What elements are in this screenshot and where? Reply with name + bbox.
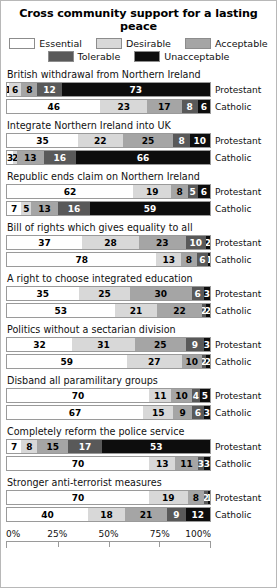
bar-segment-acceptable: 17 — [147, 100, 182, 113]
bar-row-label: Protestant — [215, 85, 261, 95]
bar-row: 6219856Protestant — [6, 184, 271, 199]
bar-segment-desirable: 6 — [9, 83, 21, 96]
legend-item-desirable[interactable]: Desirable — [96, 38, 171, 49]
bar-segment-acceptable: 25 — [123, 134, 174, 147]
stacked-bar[interactable]: 352225810 — [6, 133, 211, 148]
legend-label: Desirable — [126, 38, 171, 49]
bar-row-label: Protestant — [215, 391, 261, 401]
bar-row: 7813861Catholic — [6, 252, 271, 267]
stacked-bar[interactable]: 401821912 — [6, 507, 211, 522]
bar-group: Stronger anti-terrorist measures7019821P… — [6, 476, 271, 524]
bar-segment-acceptable: 11 — [175, 457, 197, 470]
bar-row-label: Protestant — [215, 340, 261, 350]
legend-row: TolerableUnacceptable — [6, 51, 271, 62]
bar-segment-unacceptable: 6 — [198, 100, 210, 113]
bar-group-title: Integrate Northern Ireland into UK — [7, 120, 271, 131]
bar-row: 372823102Protestant — [6, 235, 271, 250]
bar-row: 78151753Protestant — [6, 439, 271, 454]
bar-segment-essential: 53 — [7, 304, 115, 317]
bar-group: Bill of rights which gives equality to a… — [6, 221, 271, 269]
bar-segment-unacceptable: 1 — [208, 491, 210, 504]
bar-row: 352225810Protestant — [6, 133, 271, 148]
stacked-bar[interactable]: 6219856 — [6, 184, 211, 199]
stacked-bar[interactable]: 53212222 — [6, 303, 211, 318]
bar-row-label: Protestant — [215, 187, 261, 197]
bar-segment-tolerable: 16 — [58, 202, 90, 215]
bar-segment-acceptable: 21 — [125, 508, 168, 521]
bar-group: A right to choose integrated education35… — [6, 272, 271, 320]
stacked-bar[interactable]: 46231786 — [6, 99, 211, 114]
bar-segment-tolerable: 9 — [167, 508, 185, 521]
bar-segment-tolerable: 9 — [186, 338, 204, 351]
legend-item-unacceptable[interactable]: Unacceptable — [134, 51, 229, 62]
bar-group-title: Republic ends claim on Northern Ireland — [7, 171, 271, 182]
legend-row: EssentialDesirableAcceptable — [6, 38, 271, 49]
stacked-bar[interactable]: 6715963 — [6, 405, 211, 420]
legend-label: Acceptable — [215, 38, 268, 49]
bar-segment-desirable: 11 — [149, 389, 171, 402]
bar-segment-essential: 35 — [7, 287, 79, 300]
bar-segment-unacceptable: 2 — [206, 355, 210, 368]
stacked-bar[interactable]: 35253063 — [6, 286, 211, 301]
bar-segment-desirable: 8 — [21, 440, 37, 453]
x-axis-tick-marks — [6, 541, 211, 548]
bar-segment-essential: 70 — [7, 389, 149, 402]
bar-segment-unacceptable: 73 — [62, 83, 210, 96]
bar-segment-acceptable: 22 — [157, 304, 202, 317]
bar-row-label: Catholic — [215, 510, 252, 520]
bar-segment-tolerable: 4 — [192, 389, 200, 402]
bar-row-label: Protestant — [215, 493, 261, 503]
bar-segment-tolerable: 6 — [192, 406, 204, 419]
stacked-bar[interactable]: 7019821 — [6, 490, 211, 505]
bar-segment-acceptable: 8 — [181, 253, 196, 266]
legend-label: Unacceptable — [164, 51, 229, 62]
bar-segment-acceptable: 8 — [171, 185, 187, 198]
bar-segment-tolerable: 5 — [188, 185, 198, 198]
x-axis-tick-label: 50% — [98, 529, 118, 539]
x-axis-tick-label: 25% — [47, 529, 67, 539]
legend-item-essential[interactable]: Essential — [9, 38, 82, 49]
stacked-bar[interactable]: 75131659 — [6, 201, 211, 216]
bar-segment-acceptable: 8 — [188, 491, 204, 504]
bar-segment-tolerable: 8 — [182, 100, 198, 113]
bar-segment-unacceptable: 3 — [204, 406, 210, 419]
stacked-bar[interactable]: 70131133 — [6, 456, 211, 471]
bar-segment-desirable: 13 — [156, 253, 181, 266]
bar-segment-desirable: 23 — [100, 100, 147, 113]
bar-row: 35253063Protestant — [6, 286, 271, 301]
legend-swatch-unacceptable — [134, 51, 160, 62]
stacked-bar[interactable]: 1681273 — [6, 82, 211, 97]
stacked-bar[interactable]: 32312593 — [6, 337, 211, 352]
stacked-bar[interactable]: 32131666 — [6, 150, 211, 165]
x-axis-tick-label: 75% — [150, 529, 170, 539]
bar-segment-acceptable: 15 — [37, 440, 67, 453]
bar-segment-unacceptable: 10 — [190, 134, 210, 147]
stacked-bar[interactable]: 7813861 — [6, 252, 211, 267]
bar-group-title: British withdrawal from Northern Ireland — [7, 69, 271, 80]
stacked-bar[interactable]: 70111045 — [6, 388, 211, 403]
bar-segment-tolerable: 6 — [192, 287, 204, 300]
bar-segment-desirable: 19 — [149, 491, 188, 504]
bar-segment-unacceptable: 6 — [198, 185, 210, 198]
bar-row: 32131666Catholic — [6, 150, 271, 165]
x-axis-tick — [109, 542, 110, 547]
bar-segment-acceptable: 9 — [173, 406, 191, 419]
bar-row-label: Catholic — [215, 153, 252, 163]
bar-segment-essential: 46 — [7, 100, 100, 113]
bar-group-title: Completely reform the police service — [7, 426, 271, 437]
stacked-bar[interactable]: 78151753 — [6, 439, 211, 454]
bar-segment-unacceptable: 53 — [102, 440, 210, 453]
bar-row: 59271022Catholic — [6, 354, 271, 369]
stacked-bar[interactable]: 372823102 — [6, 235, 211, 250]
bar-group: British withdrawal from Northern Ireland… — [6, 68, 271, 116]
bar-segment-tolerable: 16 — [44, 151, 76, 164]
legend-item-tolerable[interactable]: Tolerable — [48, 51, 121, 62]
bar-row-label: Catholic — [215, 306, 252, 316]
bar-segment-acceptable: 8 — [21, 83, 37, 96]
legend-item-acceptable[interactable]: Acceptable — [185, 38, 268, 49]
bar-segment-essential: 35 — [7, 134, 78, 147]
bar-row-label: Catholic — [215, 255, 252, 265]
bar-segment-desirable: 27 — [127, 355, 182, 368]
stacked-bar[interactable]: 59271022 — [6, 354, 211, 369]
bar-segment-unacceptable: 3 — [204, 457, 210, 470]
